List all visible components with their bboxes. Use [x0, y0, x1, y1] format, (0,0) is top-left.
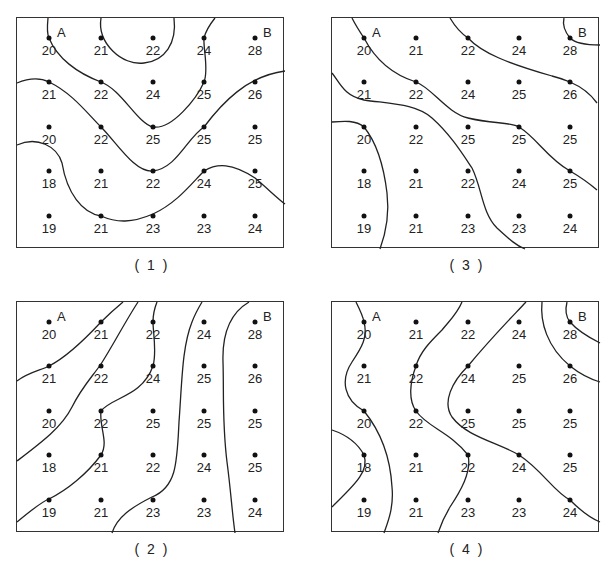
- grid-value: 25: [248, 133, 262, 146]
- grid-point: [151, 214, 156, 219]
- grid-point: [414, 364, 419, 369]
- grid-value: 25: [197, 133, 211, 146]
- grid-point: [568, 364, 573, 369]
- grid-point: [568, 36, 573, 41]
- grid-point: [568, 169, 573, 174]
- point-label-b: B: [578, 26, 587, 39]
- grid-point: [362, 36, 367, 41]
- grid-value: 20: [357, 328, 371, 341]
- grid-value: 22: [461, 461, 475, 474]
- grid-point: [202, 320, 207, 325]
- grid-value: 24: [461, 88, 475, 101]
- grid-value: 21: [42, 372, 56, 385]
- grid-point: [99, 125, 104, 130]
- grid-point: [517, 320, 522, 325]
- grid-value: 28: [248, 328, 262, 341]
- grid-point: [47, 364, 52, 369]
- grid-value: 18: [42, 461, 56, 474]
- grid-point: [202, 364, 207, 369]
- grid-value: 25: [512, 88, 526, 101]
- grid-point: [414, 498, 419, 503]
- grid-value: 24: [512, 177, 526, 190]
- grid-value: 21: [409, 461, 423, 474]
- grid-value: 22: [409, 133, 423, 146]
- grid-point: [202, 80, 207, 85]
- grid-point: [253, 80, 258, 85]
- grid-value: 23: [512, 506, 526, 519]
- grid-point: [568, 125, 573, 130]
- grid-point: [466, 36, 471, 41]
- grid-value: 26: [563, 372, 577, 385]
- grid-value: 24: [248, 222, 262, 235]
- grid-point: [151, 125, 156, 130]
- grid-value: 26: [248, 88, 262, 101]
- grid-value: 22: [94, 417, 108, 430]
- grid-point: [47, 320, 52, 325]
- grid-value: 20: [357, 44, 371, 57]
- grid-value: 22: [94, 88, 108, 101]
- grid-value: 23: [461, 222, 475, 235]
- grid-point: [414, 80, 419, 85]
- point-label-a: A: [372, 310, 381, 323]
- grid-value: 23: [512, 222, 526, 235]
- grid-point: [466, 453, 471, 458]
- grid-point: [253, 214, 258, 219]
- grid-value: 20: [357, 133, 371, 146]
- grid-point: [47, 36, 52, 41]
- grid-value: 21: [94, 177, 108, 190]
- grid-point: [568, 320, 573, 325]
- grid-point: [202, 125, 207, 130]
- grid-value: 25: [512, 417, 526, 430]
- grid-point: [517, 409, 522, 414]
- grid-value: 25: [146, 417, 160, 430]
- grid-point: [414, 453, 419, 458]
- grid-point: [517, 80, 522, 85]
- grid-value: 24: [197, 328, 211, 341]
- contour-line: [101, 18, 175, 63]
- grid-point: [362, 453, 367, 458]
- grid-point: [151, 80, 156, 85]
- point-label-a: A: [57, 26, 66, 39]
- grid-point: [466, 498, 471, 503]
- grid-value: 26: [563, 88, 577, 101]
- contour-panel-3: 2021222428212224252620222525251821222425…: [331, 17, 599, 248]
- grid-value: 18: [357, 461, 371, 474]
- grid-value: 24: [248, 506, 262, 519]
- grid-value: 24: [512, 328, 526, 341]
- grid-point: [362, 80, 367, 85]
- grid-value: 21: [94, 506, 108, 519]
- grid-value: 22: [146, 328, 160, 341]
- grid-point: [202, 498, 207, 503]
- grid-point: [253, 36, 258, 41]
- grid-value: 25: [461, 133, 475, 146]
- grid-point: [47, 498, 52, 503]
- grid-value: 24: [146, 88, 160, 101]
- grid-value: 19: [357, 222, 371, 235]
- grid-value: 22: [461, 44, 475, 57]
- grid-point: [99, 320, 104, 325]
- grid-point: [414, 169, 419, 174]
- grid-point: [414, 214, 419, 219]
- contour-line: [17, 302, 138, 461]
- grid-point: [466, 364, 471, 369]
- grid-value: 25: [563, 177, 577, 190]
- grid-point: [99, 453, 104, 458]
- grid-point: [151, 409, 156, 414]
- grid-point: [99, 498, 104, 503]
- grid-point: [151, 498, 156, 503]
- grid-value: 24: [197, 461, 211, 474]
- contour-line: [223, 302, 249, 533]
- grid-value: 19: [42, 506, 56, 519]
- grid-point: [253, 125, 258, 130]
- grid-point: [517, 453, 522, 458]
- grid-value: 23: [146, 506, 160, 519]
- grid-point: [414, 320, 419, 325]
- grid-point: [151, 453, 156, 458]
- grid-value: 24: [563, 222, 577, 235]
- point-label-b: B: [263, 310, 272, 323]
- grid-point: [47, 214, 52, 219]
- grid-point: [517, 498, 522, 503]
- contour-line: [47, 18, 215, 127]
- grid-point: [362, 169, 367, 174]
- grid-point: [253, 498, 258, 503]
